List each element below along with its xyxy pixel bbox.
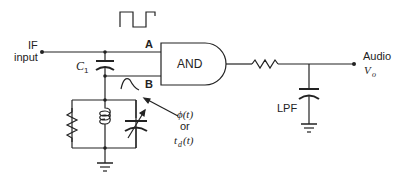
tank-inductor-icon [100,100,111,148]
lpf-resistor-icon [252,60,278,68]
square-wave-icon [120,12,155,27]
pointer-arrow [146,99,178,116]
and-gate-label: AND [177,57,203,71]
circuit-diagram: IF input C 1 A B AND Audio V o LPF ϕ(t) … [0,0,402,180]
if-input-label-2: input [14,51,38,63]
lpf-label: LPF [277,102,297,114]
vo-label: V [364,64,372,76]
pointer-arrowhead-icon [144,98,150,103]
if-input-label-1: IF [28,39,38,51]
input-b-label: B [145,78,153,90]
variable-arrowhead-icon [140,110,145,116]
vo-label-sub: o [372,70,376,79]
audio-output-terminal[interactable] [352,62,356,66]
c1-label-sub: 1 [84,66,89,75]
delay-label-tail: (t) [183,134,194,147]
input-a-label: A [145,38,153,50]
phase-or-label: or [180,120,190,132]
sine-wave-icon [121,79,139,90]
audio-output-label: Audio [363,50,391,62]
